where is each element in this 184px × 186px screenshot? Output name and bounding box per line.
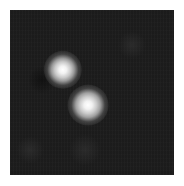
faint-feature xyxy=(69,134,101,166)
faint-feature xyxy=(118,31,146,59)
bright-spot xyxy=(68,85,109,126)
image-frame xyxy=(10,10,174,175)
faint-feature xyxy=(16,136,44,164)
